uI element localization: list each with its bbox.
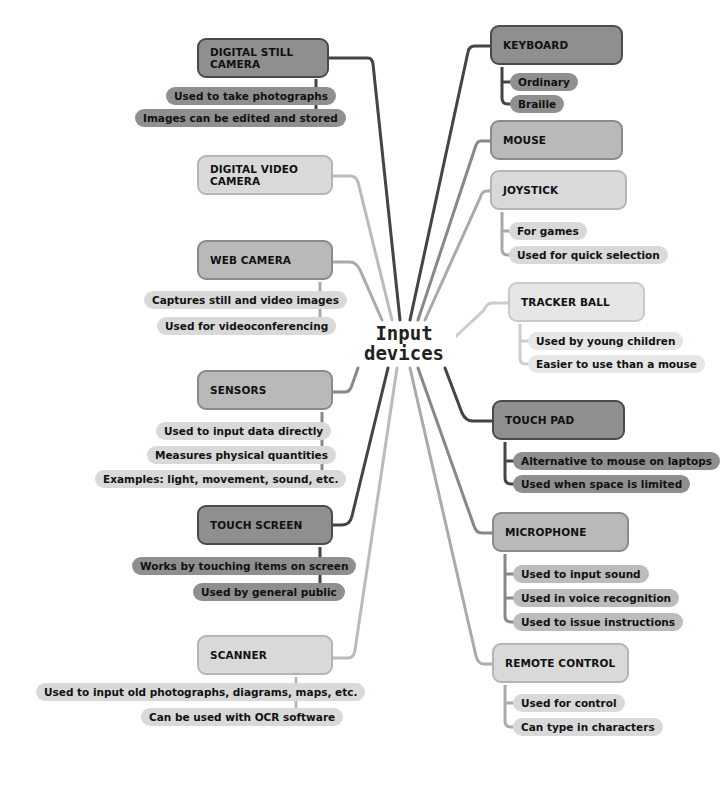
detail-digital-still-camera-2: Images can be edited and stored — [135, 109, 346, 127]
node-scanner[interactable]: SCANNER — [197, 635, 333, 675]
node-keyboard[interactable]: KEYBOARD — [490, 25, 623, 65]
detail-sensors-3: Examples: light, movement, sound, etc. — [95, 470, 346, 488]
detail-web-camera-2: Used for videoconferencing — [157, 317, 336, 335]
detail-joystick-2: Used for quick selection — [509, 246, 668, 264]
node-digital-still-camera[interactable]: DIGITAL STILL CAMERA — [197, 38, 329, 78]
node-tracker-ball[interactable]: TRACKER BALL — [508, 282, 645, 322]
detail-touch-pad-2: Used when space is limited — [513, 475, 690, 493]
node-mouse[interactable]: MOUSE — [490, 120, 623, 160]
node-touch-pad[interactable]: TOUCH PAD — [492, 400, 625, 440]
node-digital-video-camera[interactable]: DIGITAL VIDEO CAMERA — [197, 155, 333, 195]
detail-keyboard-1: Ordinary — [510, 73, 578, 91]
detail-digital-still-camera-1: Used to take photographs — [166, 87, 336, 105]
node-microphone[interactable]: MICROPHONE — [492, 512, 629, 552]
detail-microphone-2: Used in voice recognition — [513, 589, 679, 607]
central-topic: Input devices — [352, 323, 456, 363]
detail-tracker-ball-2: Easier to use than a mouse — [528, 355, 705, 373]
central-topic-line2: devices — [352, 343, 456, 363]
detail-touch-screen-1: Works by touching items on screen — [132, 557, 356, 575]
detail-scanner-2: Can be used with OCR software — [141, 708, 343, 726]
detail-touch-pad-1: Alternative to mouse on laptops — [513, 452, 720, 470]
detail-sensors-2: Measures physical quantities — [147, 446, 336, 464]
detail-remote-control-1: Used for control — [513, 694, 625, 712]
node-touch-screen[interactable]: TOUCH SCREEN — [197, 505, 333, 545]
detail-sensors-1: Used to input data directly — [156, 422, 331, 440]
node-web-camera[interactable]: WEB CAMERA — [197, 240, 333, 280]
node-joystick[interactable]: JOYSTICK — [490, 170, 627, 210]
detail-remote-control-2: Can type in characters — [513, 718, 663, 736]
detail-microphone-3: Used to issue instructions — [513, 613, 683, 631]
detail-microphone-1: Used to input sound — [513, 565, 649, 583]
central-topic-line1: Input — [352, 323, 456, 343]
detail-web-camera-1: Captures still and video images — [144, 291, 347, 309]
detail-touch-screen-2: Used by general public — [193, 583, 345, 601]
node-sensors[interactable]: SENSORS — [197, 370, 333, 410]
detail-joystick-1: For games — [509, 222, 587, 240]
node-remote-control[interactable]: REMOTE CONTROL — [492, 643, 629, 683]
detail-scanner-1: Used to input old photographs, diagrams,… — [36, 683, 365, 701]
detail-tracker-ball-1: Used by young children — [528, 332, 683, 350]
detail-keyboard-2: Braille — [510, 95, 564, 113]
